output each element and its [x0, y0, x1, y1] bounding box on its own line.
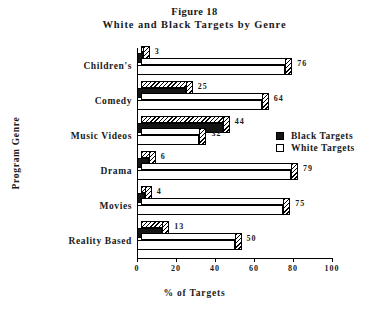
- bar-top-face-white: [141, 93, 266, 100]
- bar-top-face-white: [141, 58, 289, 65]
- y-axis-category-label: Music Videos: [71, 131, 132, 141]
- bar-top-face-white: [141, 128, 203, 135]
- chart-title: Figure 18: [0, 6, 389, 19]
- legend-item-white: White Targets: [276, 142, 355, 154]
- bar-end-cap-white: [285, 58, 292, 75]
- chart-legend: Black Targets White Targets: [276, 130, 355, 154]
- bar-value-label: 3: [155, 47, 160, 56]
- y-axis-title: Program Genre: [11, 93, 21, 213]
- bar-top-face-black: [141, 81, 190, 88]
- y-axis-category-label: Comedy: [95, 96, 132, 106]
- y-axis-line: [137, 48, 138, 258]
- bar-value-label: 25: [198, 82, 208, 91]
- bar-white-children-s: [137, 65, 285, 75]
- bar-end-cap-white: [199, 128, 206, 145]
- bar-white-movies: [137, 205, 283, 215]
- x-axis-tick: [215, 258, 216, 262]
- x-axis-tick-label: 0: [135, 264, 140, 273]
- y-axis-category-label: Reality Based: [69, 236, 132, 246]
- legend-label-black: Black Targets: [291, 131, 353, 141]
- legend-swatch-black-icon: [276, 132, 284, 140]
- x-axis-tick-label: 20: [171, 264, 181, 273]
- bar-white-reality-based: [137, 240, 235, 250]
- x-axis-line: [137, 258, 332, 259]
- chart-subtitle: White and Black Targets by Genre: [0, 19, 389, 32]
- bar-value-label: 76: [297, 59, 307, 68]
- bar-value-label: 13: [174, 222, 184, 231]
- bar-white-drama: [137, 170, 291, 180]
- bar-end-cap-white: [291, 163, 298, 180]
- bar-top-face-black: [141, 116, 227, 123]
- y-axis-category-label: Movies: [99, 201, 132, 211]
- bar-value-label: 44: [235, 117, 245, 126]
- x-axis-tick-label: 60: [249, 264, 259, 273]
- x-axis-tick: [137, 258, 138, 262]
- bar-value-label: 32: [211, 129, 221, 138]
- legend-label-white: White Targets: [291, 143, 355, 153]
- x-axis-title: % of Targets: [0, 288, 389, 298]
- chart-title-block: Figure 18 White and Black Targets by Gen…: [0, 6, 389, 31]
- x-axis-tick-label: 80: [288, 264, 298, 273]
- x-axis-tick: [293, 258, 294, 262]
- y-axis-category-label: Children's: [83, 61, 132, 71]
- bar-value-label: 6: [161, 152, 166, 161]
- x-axis-tick: [332, 258, 333, 262]
- bar-end-cap-black: [223, 116, 230, 133]
- x-axis-tick-label: 100: [325, 264, 340, 273]
- y-axis-category-label: Drama: [101, 166, 133, 176]
- bar-end-cap-white: [283, 198, 290, 215]
- bar-top-face-white: [141, 198, 287, 205]
- bar-end-cap-white: [262, 93, 269, 110]
- bar-value-label: 64: [274, 94, 284, 103]
- x-axis-tick: [176, 258, 177, 262]
- bar-value-label: 4: [157, 187, 162, 196]
- x-axis-tick-label: 40: [210, 264, 220, 273]
- chart-figure: Figure 18 White and Black Targets by Gen…: [0, 0, 389, 313]
- bar-value-label: 75: [295, 199, 305, 208]
- bar-end-cap-white: [235, 233, 242, 250]
- legend-swatch-white-icon: [276, 144, 284, 152]
- bar-value-label: 79: [303, 164, 313, 173]
- legend-item-black: Black Targets: [276, 130, 355, 142]
- bar-top-face-white: [141, 233, 239, 240]
- bar-white-music-videos: [137, 135, 199, 145]
- x-axis-tick: [254, 258, 255, 262]
- bar-value-label: 50: [247, 234, 257, 243]
- bar-white-comedy: [137, 100, 262, 110]
- bar-top-face-white: [141, 163, 295, 170]
